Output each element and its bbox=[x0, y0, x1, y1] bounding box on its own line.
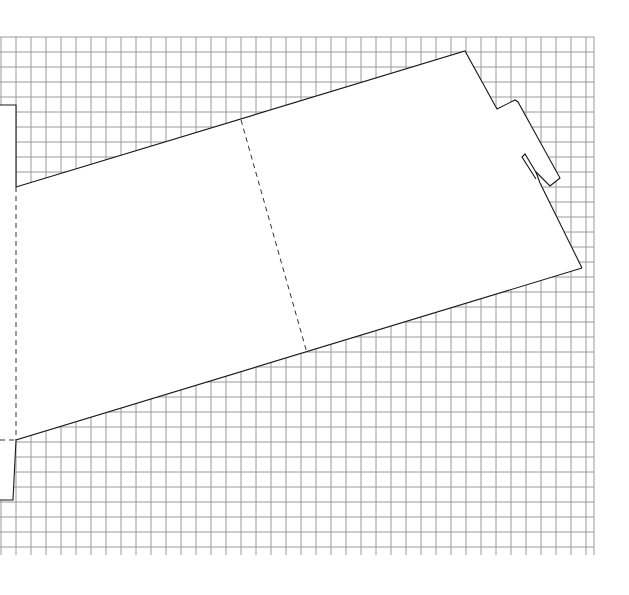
dieline-diagram bbox=[0, 0, 629, 595]
left-flap-panel bbox=[0, 105, 16, 500]
